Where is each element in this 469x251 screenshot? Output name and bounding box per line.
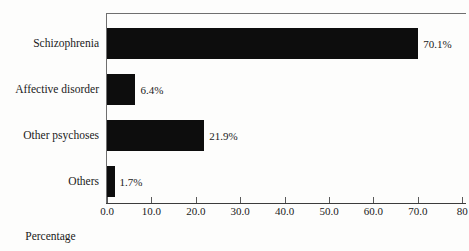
category-label-others: Others bbox=[3, 175, 99, 188]
xtick-mark-40 bbox=[285, 197, 286, 203]
category-label-other-psychoses: Other psychoses bbox=[3, 129, 99, 142]
category-label-affective-disorder: Affective disorder bbox=[3, 83, 99, 96]
xtick-label-30: 30.0 bbox=[231, 205, 250, 218]
xtick-label-80: 80 bbox=[457, 205, 468, 218]
bar-schizophrenia bbox=[107, 28, 418, 59]
xtick-mark-20 bbox=[196, 197, 197, 203]
xtick-label-70: 70.0 bbox=[408, 205, 427, 218]
bar-other-psychoses bbox=[107, 120, 204, 151]
xtick-mark-10 bbox=[151, 197, 152, 203]
xtick-mark-60 bbox=[373, 197, 374, 203]
value-label-schizophrenia: 70.1% bbox=[423, 38, 451, 51]
xtick-mark-70 bbox=[418, 197, 419, 203]
xtick-label-0: 0.0 bbox=[100, 205, 114, 218]
value-label-others: 1.7% bbox=[120, 176, 143, 189]
x-axis-title-text: Percentage bbox=[25, 230, 75, 242]
xtick-label-50: 50.0 bbox=[319, 205, 338, 218]
xtick-label-20: 20.0 bbox=[186, 205, 205, 218]
xtick-mark-0 bbox=[107, 197, 108, 203]
plot-frame-bottom-axis bbox=[106, 203, 466, 204]
xtick-mark-80 bbox=[462, 197, 463, 203]
bar-affective-disorder bbox=[107, 74, 135, 105]
bar-others bbox=[107, 166, 115, 197]
xtick-label-60: 60.0 bbox=[364, 205, 383, 218]
xtick-label-40: 40.0 bbox=[275, 205, 294, 218]
x-axis-title: Percentage bbox=[0, 229, 469, 243]
category-label-schizophrenia: Schizophrenia bbox=[3, 37, 99, 50]
plot-frame-top-border bbox=[106, 13, 466, 14]
value-label-affective-disorder: 6.4% bbox=[140, 84, 163, 97]
xtick-mark-30 bbox=[240, 197, 241, 203]
xtick-mark-50 bbox=[329, 197, 330, 203]
xtick-label-10: 10.0 bbox=[142, 205, 161, 218]
bar-chart-figure: Schizophrenia Affective disorder Other p… bbox=[0, 0, 469, 251]
value-label-other-psychoses: 21.9% bbox=[209, 130, 237, 143]
